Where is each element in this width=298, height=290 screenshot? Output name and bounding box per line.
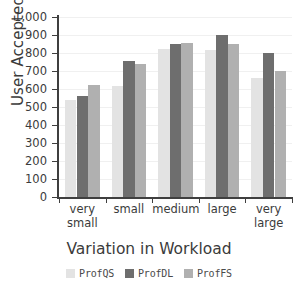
legend-label: ProfQS <box>79 268 114 279</box>
legend-swatch <box>125 269 134 278</box>
bar <box>205 50 217 197</box>
x-group-label: large <box>199 203 246 217</box>
y-tick-mark <box>52 71 57 72</box>
y-tick-label: 900 <box>5 29 47 41</box>
x-axis-title: Variation in Workload <box>0 240 298 258</box>
bar <box>77 96 89 197</box>
x-group-label: small <box>106 203 153 217</box>
bar-chart-figure: User Accepted 01002003004005006007008009… <box>0 0 298 290</box>
legend-swatch <box>184 269 193 278</box>
x-group-label-line: medium <box>152 203 199 217</box>
bar <box>228 44 240 197</box>
y-tick-mark <box>52 35 57 36</box>
plot-area <box>59 17 292 197</box>
legend-entry[interactable]: ProfFS <box>184 268 232 279</box>
y-tick-label: 800 <box>5 47 47 59</box>
bar <box>181 43 193 197</box>
y-tick-mark <box>52 89 57 90</box>
y-tick-mark <box>52 53 57 54</box>
legend-entry[interactable]: ProfQS <box>66 268 114 279</box>
bar <box>112 86 124 197</box>
y-tick-label: 700 <box>5 65 47 77</box>
y-tick-label: 200 <box>5 155 47 167</box>
y-tick-mark <box>52 143 57 144</box>
x-group-label-line: very <box>245 203 292 217</box>
y-tick-mark <box>52 17 57 18</box>
x-group-label: verylarge <box>245 203 292 230</box>
y-tick-label: 300 <box>5 137 47 149</box>
x-group-label: medium <box>152 203 199 217</box>
chart-legend: ProfQSProfDLProfFS <box>0 268 298 279</box>
y-tick-mark <box>52 125 57 126</box>
legend-swatch <box>66 269 75 278</box>
x-group-label-line: small <box>106 203 153 217</box>
bar <box>135 64 147 197</box>
bar <box>216 35 228 197</box>
bar <box>88 85 100 198</box>
legend-label: ProfFS <box>197 268 232 279</box>
y-tick-label: 400 <box>5 119 47 131</box>
bar <box>275 71 287 197</box>
x-axis-line <box>57 197 293 199</box>
bar <box>65 100 77 197</box>
x-group-label-line: small <box>59 217 106 231</box>
y-tick-mark <box>52 197 57 198</box>
y-tick-label: 1,000 <box>5 11 47 23</box>
y-tick-mark <box>52 179 57 180</box>
y-tick-label: 500 <box>5 101 47 113</box>
bar <box>251 78 263 197</box>
x-group-label-line: large <box>245 217 292 231</box>
gridline <box>59 35 292 36</box>
y-tick-mark <box>52 107 57 108</box>
bar <box>170 44 182 197</box>
bar <box>158 49 170 197</box>
x-group-label-line: very <box>59 203 106 217</box>
x-group-label-line: large <box>199 203 246 217</box>
legend-entry[interactable]: ProfDL <box>125 268 173 279</box>
legend-label: ProfDL <box>138 268 173 279</box>
y-tick-label: 0 <box>5 191 47 203</box>
x-group-label: verysmall <box>59 203 106 230</box>
y-tick-label: 100 <box>5 173 47 185</box>
bar <box>123 61 135 197</box>
y-tick-label: 600 <box>5 83 47 95</box>
y-tick-mark <box>52 161 57 162</box>
bar <box>263 53 275 197</box>
gridline <box>59 17 292 18</box>
x-tick-mark <box>292 199 293 203</box>
